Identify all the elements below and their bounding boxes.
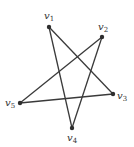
labels: v1v2v3v4v5 — [5, 10, 127, 145]
label-v2: v2 — [98, 21, 108, 34]
label-v4: v4 — [67, 132, 78, 145]
label-v1: v1 — [44, 10, 54, 23]
edges — [20, 27, 113, 128]
vertex-v3 — [111, 92, 115, 96]
vertex-v2 — [100, 35, 104, 39]
pentagram-graph: v1v2v3v4v5 — [0, 0, 134, 147]
label-v3: v3 — [117, 90, 127, 103]
vertex-v4 — [70, 126, 74, 130]
label-v5: v5 — [5, 97, 15, 110]
edge-v2-v4 — [72, 37, 102, 128]
vertex-v5 — [18, 101, 22, 105]
vertex-v1 — [47, 25, 51, 29]
